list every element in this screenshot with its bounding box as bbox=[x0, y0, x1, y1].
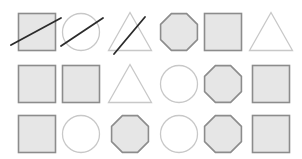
octagon-shape bbox=[112, 116, 149, 153]
octagon-shape bbox=[205, 116, 242, 153]
square-shape bbox=[253, 116, 290, 153]
octagon-shape bbox=[161, 14, 198, 51]
square-shape bbox=[253, 66, 290, 103]
square-shape bbox=[19, 116, 56, 153]
shape-grid-diagram bbox=[0, 0, 302, 159]
octagon-shape bbox=[205, 66, 242, 103]
square-shape bbox=[205, 14, 242, 51]
square-shape bbox=[63, 66, 100, 103]
square-shape bbox=[19, 66, 56, 103]
square-shape bbox=[19, 14, 56, 51]
